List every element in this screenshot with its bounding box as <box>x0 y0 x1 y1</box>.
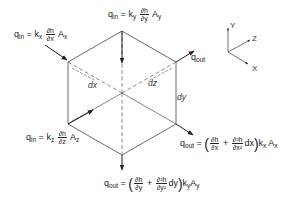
fraction: ∂h∂y <box>140 7 149 22</box>
z-axis-line <box>228 40 250 52</box>
axis-label-z: Z <box>252 34 257 43</box>
dimension-dy: dy <box>177 92 186 102</box>
q-out-x-arrow <box>176 124 193 135</box>
q-in-z-label: qin = kz ∂h∂z Az <box>26 130 79 145</box>
q-in-x-label: qin = kx ∂h∂x Ax <box>14 27 67 42</box>
dimension-dz: dz <box>148 78 157 88</box>
x-axis-line <box>228 52 248 64</box>
q-in-y-label: qin = ky ∂h∂y Ay <box>108 7 161 22</box>
q-in-x-arrow <box>45 45 67 60</box>
q-out-x-label: qout = (∂h∂x + ∂²h∂x²dx)kx Ax <box>180 136 278 151</box>
axis-triad <box>228 28 250 64</box>
fraction: ∂h∂y <box>134 176 143 191</box>
dx-dimension-line <box>72 68 94 80</box>
q-in-z-arrow <box>68 110 93 124</box>
fraction: ∂h∂x <box>210 136 219 151</box>
fraction: ∂²h∂x² <box>232 136 244 151</box>
fraction: ∂h∂z <box>58 130 67 145</box>
axis-label-x: X <box>252 64 257 73</box>
q-out-y-label: qout = (∂h∂y + ∂²h∂y²dy)kyAy <box>104 176 200 191</box>
q-out-z-label: qout <box>191 53 205 64</box>
fraction: ∂h∂x <box>46 27 55 42</box>
dimension-dx: dx <box>88 80 97 90</box>
axis-label-y: Y <box>230 21 235 30</box>
fraction: ∂²h∂y² <box>156 176 168 191</box>
